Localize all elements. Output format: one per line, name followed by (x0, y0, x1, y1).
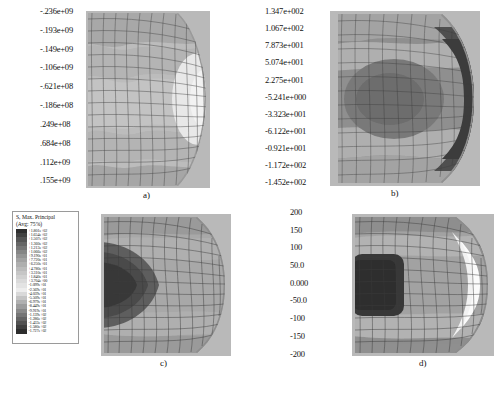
colorbar-b-label-9: -1.172e+002 (265, 161, 306, 170)
legend-row: -1.727e+02 (16, 329, 75, 333)
contour-plot-c (101, 214, 231, 356)
legend-title-line2: (Avg: 75%) (16, 221, 75, 228)
colorbar-b: 1.347e+0021.067e+0027.873e+0015.074e+001… (248, 11, 259, 183)
colorbar-a-label-9: .155e+09 (40, 176, 73, 185)
colorbar-a-label-4: -.621e+08 (40, 82, 73, 91)
colorbar-d-label-3: 50.0 (290, 261, 308, 270)
colorbar-b-label-2: 7.873e+001 (265, 41, 306, 50)
colorbar-b-label-8: -0.921e+001 (265, 144, 306, 153)
colorbar-b-label-0: 1.347e+002 (265, 7, 306, 16)
legend-rows: +1.801e+02+1.654e+02+1.507e+02+1.360e+02… (16, 229, 75, 334)
contour-plot-a (86, 11, 210, 188)
colorbar-b-label-3: 5.074e+001 (265, 58, 306, 67)
colorbar-a-labels: -.236e+09-.193e+09-.149e+09-.106e+09-.62… (40, 7, 73, 185)
colorbar-a-label-8: .112e+09 (40, 158, 73, 167)
contour-plot-d (352, 214, 494, 356)
colorbar-d-label-0: 200 (290, 208, 308, 217)
colorbar-a: -.236e+09-.193e+09-.149e+09-.106e+09-.62… (22, 10, 34, 182)
colorbar-a-label-3: -.106e+09 (40, 63, 73, 72)
colorbar-b-label-7: -6.122e+001 (265, 127, 306, 136)
caption-c: c) (160, 358, 167, 368)
colorbar-b-label-1: 1.067e+002 (265, 24, 306, 33)
colorbar-d-label-4: 0.000 (290, 279, 308, 288)
stress-legend-c: S, Max. Principal (Avg: 75%) +1.801e+02+… (12, 211, 79, 344)
colorbar-a-label-0: -.236e+09 (40, 7, 73, 16)
colorbar-a-label-6: .249e+08 (40, 120, 73, 129)
caption-b: b) (391, 188, 399, 198)
caption-a: a) (143, 190, 150, 200)
colorbar-d-label-6: -100 (290, 314, 308, 323)
colorbar-b-label-6: -3.323e+001 (265, 110, 306, 119)
legend-value-24: -1.727e+02 (29, 329, 47, 333)
colorbar-d: 20015010050.00.000-50.0-100-150-200 (272, 212, 283, 354)
colorbar-d-label-7: -150 (290, 332, 308, 341)
colorbar-b-labels: 1.347e+0021.067e+0027.873e+0015.074e+001… (265, 7, 306, 187)
colorbar-d-labels: 20015010050.00.000-50.0-100-150-200 (290, 208, 308, 358)
legend-chip-24 (16, 329, 27, 333)
colorbar-d-label-2: 100 (290, 243, 308, 252)
colorbar-a-label-1: -.193e+09 (40, 26, 73, 35)
legend-title-line1: S, Max. Principal (16, 214, 75, 221)
colorbar-b-label-10: -1.452e+002 (265, 178, 306, 187)
contour-plot-b (330, 11, 480, 186)
colorbar-b-label-4: 2.275e+001 (265, 76, 306, 85)
colorbar-a-label-7: .684e+08 (40, 139, 73, 148)
caption-d: d) (419, 358, 427, 368)
colorbar-d-label-5: -50.0 (290, 296, 308, 305)
colorbar-d-label-8: -200 (290, 350, 308, 359)
colorbar-a-label-2: -.149e+09 (40, 45, 73, 54)
colorbar-a-label-5: -.186e+08 (40, 101, 73, 110)
colorbar-d-label-1: 150 (290, 226, 308, 235)
colorbar-b-label-5: -5.241e+000 (265, 93, 306, 102)
